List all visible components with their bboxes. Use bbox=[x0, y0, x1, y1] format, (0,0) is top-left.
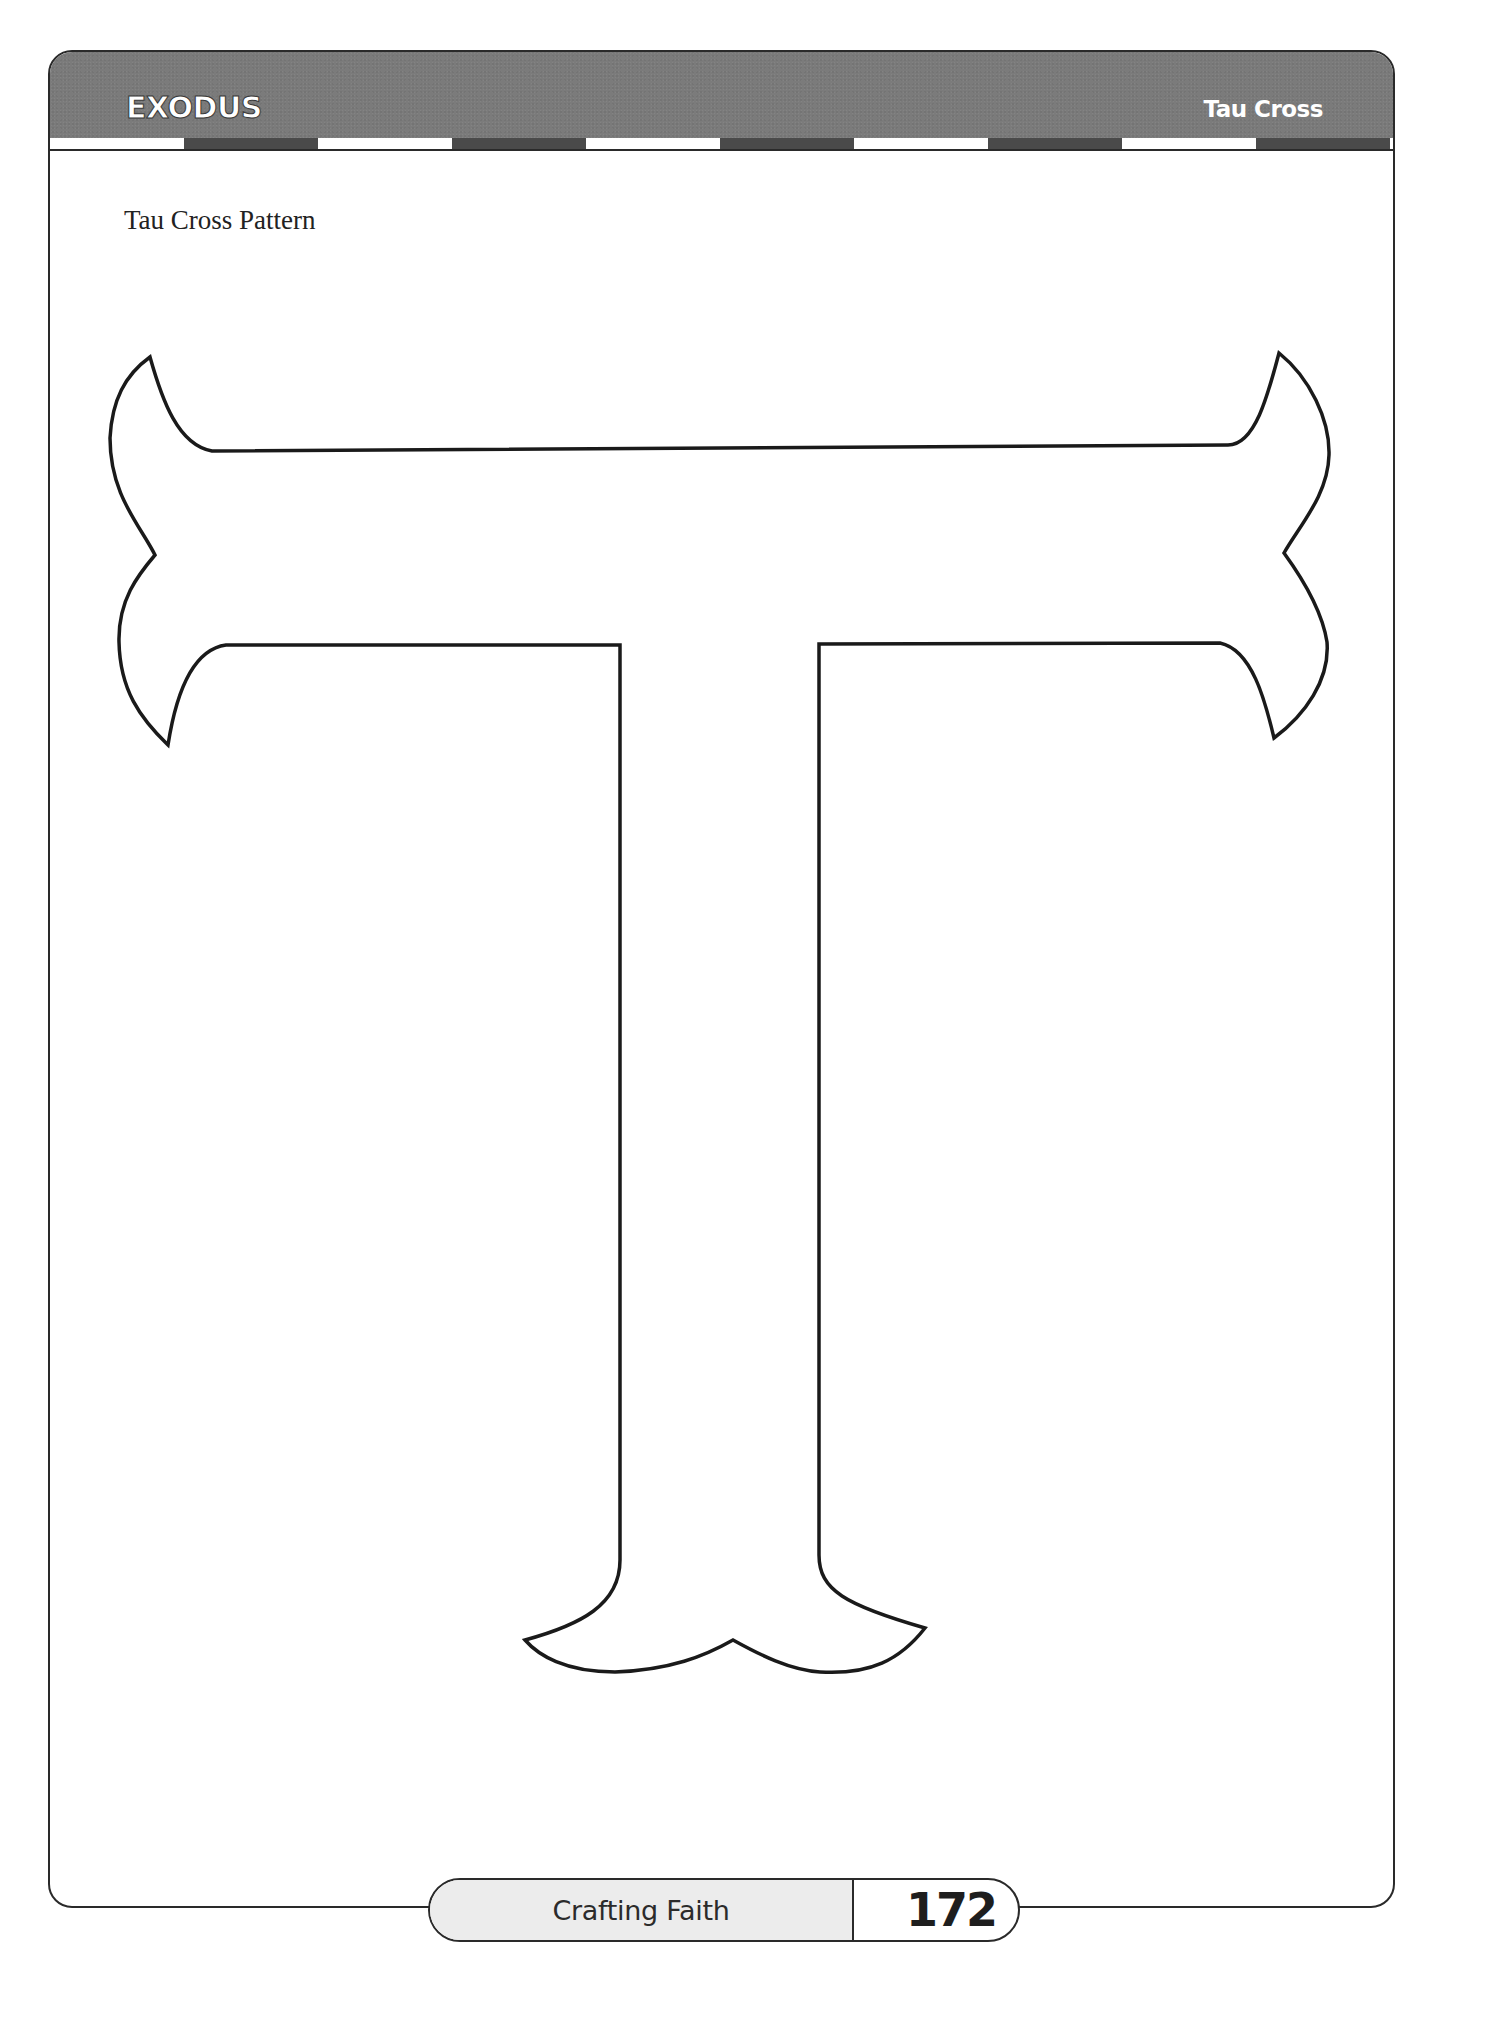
page-number: 172 bbox=[854, 1880, 1018, 1940]
tau-cross-outline-icon bbox=[0, 0, 1485, 2019]
book-title: Crafting Faith bbox=[430, 1880, 854, 1940]
tau-cross-outline bbox=[110, 353, 1329, 1672]
footer-pill: Crafting Faith 172 bbox=[428, 1878, 1020, 1942]
